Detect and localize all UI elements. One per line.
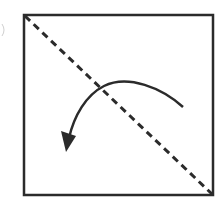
edge-fragment: [2, 24, 4, 36]
fold-diagram: [0, 0, 224, 202]
